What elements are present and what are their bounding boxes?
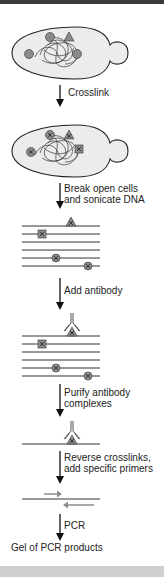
protein-circle-icon [25,50,34,59]
protein-circle-icon [73,50,82,59]
bottom-border [0,566,164,577]
final-label-gel: Gel of PCR products [11,542,103,553]
step-label-crosslink: Crosslink [68,87,109,98]
step-label-reverse-crosslinks: Reverse crosslinks, add specific primers [64,452,153,474]
antibody-bound-fragments-icon [22,336,100,376]
dna-fragments-icon [22,226,100,266]
reverse-primer-icon [63,502,94,509]
step-label-add-antibody: Add antibody [64,285,122,296]
forward-primer-icon [44,491,62,498]
step-label-sonicate: Break open cells and sonicate DNA [64,183,145,205]
step-label-pcr: PCR [64,520,85,531]
yeast-cell-icon [12,27,128,79]
step-label-purify: Purify antibody complexes [64,387,130,409]
protein-circle-icon [46,33,55,42]
crosslinked-cell-icon [12,125,128,177]
